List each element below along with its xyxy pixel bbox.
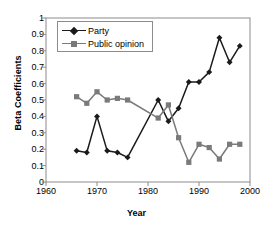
diamond-marker-icon: [125, 154, 131, 160]
diamond-marker-icon: [216, 35, 222, 41]
chart-legend: Party Public opinion: [57, 21, 153, 52]
square-marker-icon: [74, 94, 79, 99]
square-marker-icon: [207, 145, 212, 150]
diamond-marker-icon: [70, 26, 78, 34]
square-marker-icon: [237, 142, 242, 147]
diamond-marker-icon: [155, 97, 161, 103]
diamond-marker-icon: [186, 79, 192, 85]
data-series-layer: [74, 35, 243, 165]
legend-swatch-public-opinion: [62, 39, 86, 49]
square-marker-icon: [115, 96, 120, 101]
chart-figure: Beta Coefficients Year 1 0.9 0.8 0.7 0.6…: [0, 0, 273, 226]
square-marker-icon: [166, 102, 171, 107]
x-axis-ticks: [46, 182, 250, 186]
legend-item-party: Party: [62, 24, 109, 37]
square-marker-icon: [176, 135, 181, 140]
diamond-marker-icon: [94, 113, 100, 119]
legend-label: Party: [88, 26, 109, 36]
square-marker-icon: [105, 97, 110, 102]
diamond-marker-icon: [84, 150, 90, 156]
legend-label: Public opinion: [88, 39, 144, 49]
diamond-marker-icon: [104, 148, 110, 154]
square-marker-icon: [71, 41, 77, 47]
legend-item-public-opinion: Public opinion: [62, 37, 144, 50]
series-party: [74, 35, 243, 161]
square-marker-icon: [125, 97, 130, 102]
square-marker-icon: [227, 142, 232, 147]
square-marker-icon: [84, 101, 89, 106]
diamond-marker-icon: [114, 150, 120, 156]
square-marker-icon: [94, 89, 99, 94]
diamond-marker-icon: [74, 148, 80, 154]
square-marker-icon: [156, 115, 161, 120]
square-marker-icon: [186, 160, 191, 165]
square-marker-icon: [196, 142, 201, 147]
square-marker-icon: [217, 156, 222, 161]
y-axis-ticks: [42, 18, 46, 182]
legend-swatch-party: [62, 26, 86, 36]
